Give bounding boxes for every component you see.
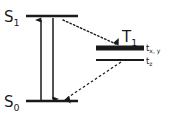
sublevel-label-tz-subscript: z: [149, 60, 152, 67]
sublevel-label-txy: tx, y: [146, 43, 161, 55]
state-label-s1-text: S: [4, 8, 14, 26]
state-label-s1-subscript: 1: [14, 17, 20, 28]
sublevel-label-txy-subscript: x, y: [149, 47, 160, 55]
state-label-s0-text: S: [4, 93, 14, 111]
phosphorescence-arrow: [67, 62, 121, 98]
state-label-t1-subscript: 1: [131, 37, 137, 48]
state-label-s0: S0: [4, 93, 20, 113]
state-label-s0-subscript: 0: [14, 102, 20, 113]
sublevel-label-tz: tz: [146, 56, 153, 67]
energy-level-diagram-canvas: S1 S0 T1 tx, y tz: [0, 0, 175, 120]
jablonski-diagram: S1 S0 T1 tx, y tz: [0, 0, 175, 120]
state-label-s1: S1: [4, 8, 20, 28]
state-label-t1: T1: [121, 28, 137, 48]
intersystem-crossing-arrow: [63, 20, 116, 44]
